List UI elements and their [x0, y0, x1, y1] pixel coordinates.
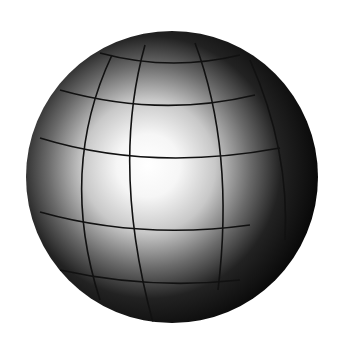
globe-svg	[0, 0, 341, 356]
globe-illustration	[0, 0, 341, 356]
globe-sphere	[26, 31, 318, 323]
